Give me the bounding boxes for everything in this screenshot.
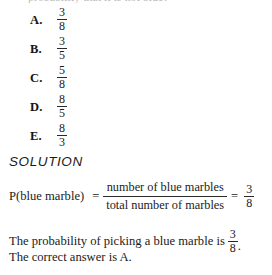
- conclusion-period: .: [238, 239, 241, 255]
- probability-formula: P(blue marble) = number of blue marbles …: [9, 180, 271, 212]
- fraction-numerator: 3: [228, 228, 238, 240]
- answer-choice-d[interactable]: D. 8 5: [0, 93, 272, 122]
- choice-letter-b: B.: [30, 42, 42, 57]
- choice-letter-e: E.: [30, 129, 42, 144]
- cut-off-question-stem: probability that it is not blue?: [28, 0, 258, 3]
- choice-fraction-d: 8 5: [57, 93, 67, 120]
- choice-letter-a: A.: [30, 13, 43, 28]
- textbook-page: { "page": { "cut_off_top_line": "probabi…: [0, 0, 272, 275]
- fraction-denominator: total number of marbles: [103, 197, 227, 213]
- choice-fraction-a: 3 8: [57, 6, 67, 33]
- conclusion-sentence-2: The correct answer is A.: [9, 250, 132, 265]
- choice-letter-c: C.: [30, 71, 43, 86]
- fraction-numerator: 3: [57, 6, 67, 18]
- fraction-denominator: 8: [228, 242, 238, 254]
- fraction-numerator: 8: [57, 122, 67, 134]
- answer-choice-c[interactable]: C. 5 8: [0, 64, 272, 93]
- conclusion-text: The probability of picking a blue marble…: [9, 234, 228, 249]
- fraction-denominator: 8: [57, 20, 67, 32]
- choice-letter-d: D.: [30, 100, 43, 115]
- fraction-numerator: 5: [57, 64, 67, 76]
- answer-choices-list: A. 3 8 B. 3 5 C. 5 8: [0, 6, 272, 151]
- fraction-numerator: 3: [244, 183, 254, 195]
- fraction-denominator: 5: [57, 49, 67, 61]
- fraction-numerator: number of blue marbles: [103, 180, 227, 196]
- formula-equals-1: =: [88, 189, 103, 204]
- choice-fraction-b: 3 5: [57, 35, 67, 62]
- fraction-denominator: 5: [57, 107, 67, 119]
- fraction-numerator: 8: [57, 93, 67, 105]
- formula-ratio-fraction: number of blue marbles total number of m…: [103, 180, 227, 212]
- conclusion-fraction: 3 8: [228, 228, 238, 255]
- formula-lhs: P(blue marble): [9, 189, 88, 204]
- answer-choice-b[interactable]: B. 3 5: [0, 35, 272, 64]
- solution-heading: SOLUTION: [9, 154, 83, 169]
- fraction-denominator: 8: [57, 78, 67, 90]
- answer-choice-a[interactable]: A. 3 8: [0, 6, 272, 35]
- answer-choice-e[interactable]: E. 8 3: [0, 122, 272, 151]
- fraction-denominator: 8: [244, 197, 254, 209]
- fraction-numerator: 3: [57, 35, 67, 47]
- choice-fraction-e: 8 3: [57, 122, 67, 149]
- formula-equals-2: =: [227, 189, 242, 204]
- formula-result-fraction: 3 8: [242, 183, 254, 210]
- fraction-denominator: 3: [57, 136, 67, 148]
- choice-fraction-c: 5 8: [57, 64, 67, 91]
